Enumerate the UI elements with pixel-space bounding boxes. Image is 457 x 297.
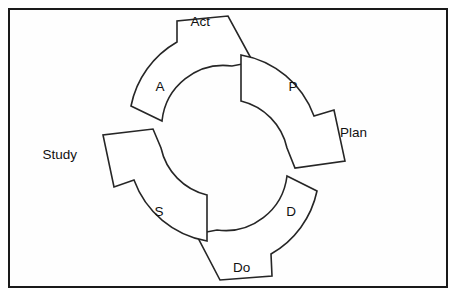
act-initial-label: A — [155, 79, 164, 94]
plan-arrow[interactable] — [241, 55, 345, 168]
act-arrow[interactable] — [131, 16, 253, 121]
plan-label: Plan — [340, 125, 367, 140]
study-arrow[interactable] — [103, 129, 207, 241]
study-label: Study — [42, 147, 77, 162]
study-initial-label: S — [154, 204, 163, 219]
do-arrow[interactable] — [196, 176, 317, 280]
diagram-page: Act Plan Do Study A P D S — [0, 0, 457, 297]
do-label: Do — [233, 260, 250, 275]
do-initial-label: D — [286, 204, 296, 219]
plan-initial-label: P — [288, 79, 297, 94]
act-label: Act — [190, 14, 210, 29]
pdsa-cycle-diagram: Act Plan Do Study A P D S — [0, 0, 457, 297]
